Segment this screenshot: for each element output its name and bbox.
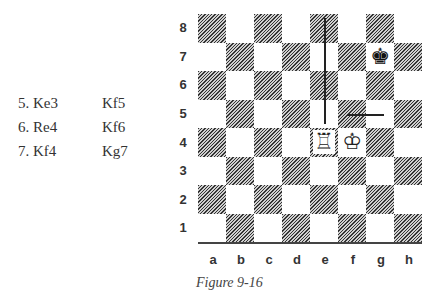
square-a6 <box>198 71 226 100</box>
square-g6 <box>366 71 394 100</box>
square-d6 <box>282 71 310 100</box>
chess-board: ♚♖♔ <box>198 14 422 244</box>
square-c4 <box>254 128 282 157</box>
white-move: 5. Ke3 <box>18 91 58 115</box>
file-label-c: c <box>255 252 283 267</box>
black-king-glyph: ♚ <box>369 45 391 69</box>
square-b3 <box>226 157 254 186</box>
square-f3 <box>338 157 366 186</box>
square-c3 <box>254 157 282 186</box>
white-move: 6. Re4 <box>18 115 57 139</box>
file-label-h: h <box>395 252 423 267</box>
square-a4 <box>198 128 226 157</box>
square-b7 <box>226 43 254 72</box>
square-b6 <box>226 71 254 100</box>
square-c8 <box>254 14 282 43</box>
black-move: Kf6 <box>102 115 125 139</box>
square-f2 <box>338 185 366 214</box>
rank-label-3: 3 <box>176 163 190 178</box>
square-a3 <box>198 157 226 186</box>
square-d1 <box>282 214 310 243</box>
rank-label-2: 2 <box>176 192 190 207</box>
rank-label-1: 1 <box>176 220 190 235</box>
black-move: Kf5 <box>102 91 125 115</box>
square-d3 <box>282 157 310 186</box>
file-label-a: a <box>199 252 227 267</box>
white-rook-glyph: ♖ <box>313 130 335 154</box>
square-b2 <box>226 185 254 214</box>
square-h6 <box>394 71 422 100</box>
square-f6 <box>338 71 366 100</box>
square-d5 <box>282 100 310 129</box>
square-h4 <box>394 128 422 157</box>
square-c2 <box>254 185 282 214</box>
square-b4 <box>226 128 254 157</box>
square-h3 <box>394 157 422 186</box>
square-b8 <box>226 14 254 43</box>
square-g4 <box>366 128 394 157</box>
square-d7 <box>282 43 310 72</box>
file-label-f: f <box>339 252 367 267</box>
square-f8 <box>338 14 366 43</box>
square-a1 <box>198 214 226 243</box>
white-king-glyph: ♔ <box>341 130 363 154</box>
square-a7 <box>198 43 226 72</box>
vertical-line-e-file <box>324 18 326 124</box>
file-label-d: d <box>283 252 311 267</box>
white-rook-icon: ♖ <box>310 128 338 157</box>
rank-label-7: 7 <box>176 49 190 64</box>
square-e2 <box>310 185 338 214</box>
file-label-g: g <box>367 252 395 267</box>
square-f7 <box>338 43 366 72</box>
square-a8 <box>198 14 226 43</box>
square-h8 <box>394 14 422 43</box>
square-h5 <box>394 100 422 129</box>
square-h7 <box>394 43 422 72</box>
square-h1 <box>394 214 422 243</box>
square-a5 <box>198 100 226 129</box>
square-g8 <box>366 14 394 43</box>
square-b5 <box>226 100 254 129</box>
square-c6 <box>254 71 282 100</box>
rank-label-4: 4 <box>176 135 190 150</box>
file-label-e: e <box>311 252 339 267</box>
square-f1 <box>338 214 366 243</box>
white-move: 7. Kf4 <box>18 139 56 163</box>
square-e1 <box>310 214 338 243</box>
square-h2 <box>394 185 422 214</box>
black-move: Kg7 <box>102 139 128 163</box>
square-d4 <box>282 128 310 157</box>
square-g2 <box>366 185 394 214</box>
square-g3 <box>366 157 394 186</box>
square-d2 <box>282 185 310 214</box>
square-b1 <box>226 214 254 243</box>
square-c1 <box>254 214 282 243</box>
square-c5 <box>254 100 282 129</box>
file-label-b: b <box>227 252 255 267</box>
horizontal-line-rank-5 <box>347 114 384 116</box>
black-king-icon: ♚ <box>366 43 394 72</box>
rank-label-8: 8 <box>176 20 190 35</box>
square-c7 <box>254 43 282 72</box>
rank-label-5: 5 <box>176 106 190 121</box>
white-king-icon: ♔ <box>338 128 366 157</box>
square-a2 <box>198 185 226 214</box>
figure-caption: Figure 9-16 <box>196 275 263 291</box>
square-g1 <box>366 214 394 243</box>
square-d8 <box>282 14 310 43</box>
rank-label-6: 6 <box>176 77 190 92</box>
square-e3 <box>310 157 338 186</box>
